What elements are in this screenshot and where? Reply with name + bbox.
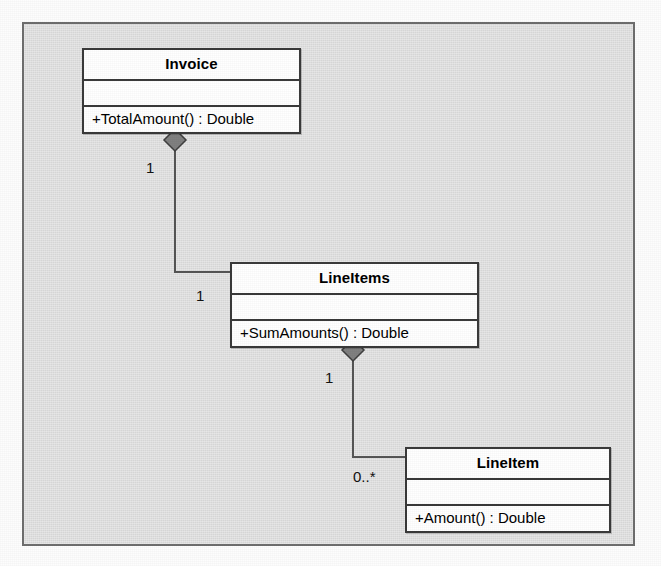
- class-name-invoice: Invoice: [84, 50, 299, 81]
- class-operation-lineitem: +Amount() : Double: [407, 506, 609, 532]
- multiplicity-lineitem-target: 0..*: [353, 469, 376, 484]
- class-attributes-lineitem: [407, 480, 609, 506]
- class-name-lineitem: LineItem: [407, 449, 609, 480]
- diagram-page: Invoice +TotalAmount() : Double LineItem…: [0, 0, 661, 566]
- class-attributes-lineitems: [232, 295, 477, 321]
- multiplicity-lineitems-target: 1: [196, 288, 204, 303]
- class-operation-lineitems: +SumAmounts() : Double: [232, 321, 477, 347]
- multiplicity-lineitems-source: 1: [325, 370, 333, 385]
- multiplicity-invoice-source: 1: [146, 160, 154, 175]
- uml-class-invoice[interactable]: Invoice +TotalAmount() : Double: [82, 48, 301, 134]
- uml-class-lineitem[interactable]: LineItem +Amount() : Double: [405, 447, 611, 533]
- class-operation-invoice: +TotalAmount() : Double: [84, 107, 299, 133]
- uml-class-lineitems[interactable]: LineItems +SumAmounts() : Double: [230, 262, 479, 348]
- class-name-lineitems: LineItems: [232, 264, 477, 295]
- class-attributes-invoice: [84, 81, 299, 107]
